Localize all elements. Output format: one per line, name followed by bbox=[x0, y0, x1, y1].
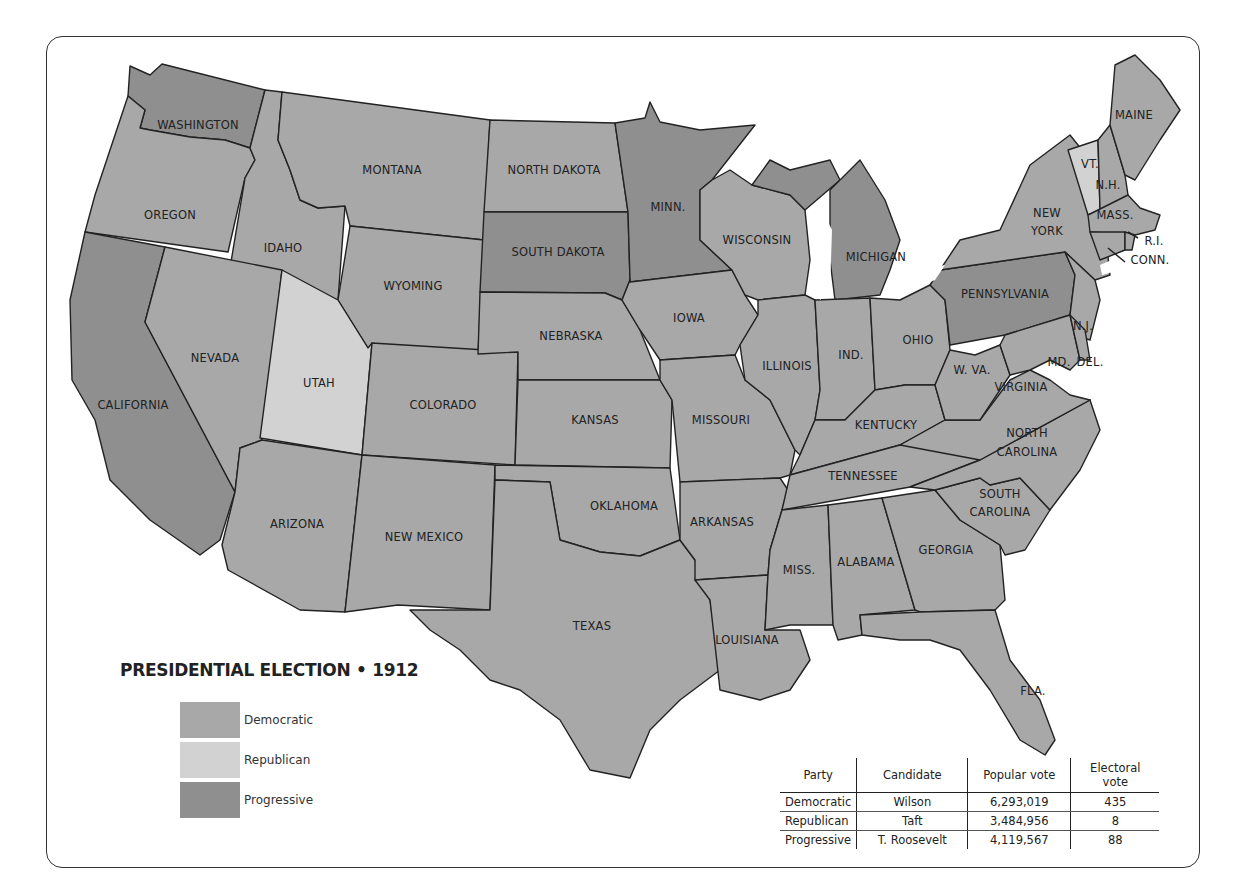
label-delaware: DEL. bbox=[1077, 355, 1104, 369]
label-alabama: ALABAMA bbox=[837, 555, 894, 569]
label-oklahoma: OKLAHOMA bbox=[590, 499, 658, 513]
state-michigan bbox=[830, 160, 900, 300]
cell-candidate: Wilson bbox=[857, 793, 968, 812]
label-pennsylvania: PENNSYLVANIA bbox=[961, 287, 1049, 301]
label-tennessee: TENNESSEE bbox=[827, 469, 898, 483]
label-south-carolina-2: CAROLINA bbox=[970, 505, 1031, 519]
legend-label-democratic: Democratic bbox=[244, 713, 313, 727]
label-colorado: COLORADO bbox=[409, 398, 476, 412]
label-rhode-island: R.I. bbox=[1144, 234, 1163, 248]
results-table: Party Candidate Popular vote Electoral v… bbox=[780, 758, 1159, 849]
label-maryland: MD. bbox=[1047, 355, 1070, 369]
table-header-row: Party Candidate Popular vote Electoral v… bbox=[780, 758, 1159, 793]
label-west-virginia: W. VA. bbox=[953, 363, 990, 377]
state-florida bbox=[860, 610, 1055, 755]
label-north-dakota: NORTH DAKOTA bbox=[507, 163, 600, 177]
legend-item-democratic: Democratic bbox=[180, 702, 313, 738]
label-new-jersey: N.J. bbox=[1073, 319, 1093, 333]
legend-swatch-republican bbox=[180, 742, 240, 778]
lake-michigan bbox=[812, 210, 832, 300]
label-montana: MONTANA bbox=[362, 163, 421, 177]
label-new-york-2: YORK bbox=[1030, 224, 1063, 238]
label-wisconsin: WISCONSIN bbox=[723, 233, 792, 247]
cell-electoral-vote: 88 bbox=[1071, 831, 1160, 850]
label-texas: TEXAS bbox=[572, 619, 611, 633]
legend: PRESIDENTIAL ELECTION • 1912 Democratic … bbox=[120, 660, 418, 680]
label-new-mexico: NEW MEXICO bbox=[385, 530, 463, 544]
table-row: Republican Taft 3,484,956 8 bbox=[780, 812, 1159, 831]
cell-party: Democratic bbox=[780, 793, 857, 812]
cell-popular-vote: 6,293,019 bbox=[968, 793, 1071, 812]
label-south-dakota: SOUTH DAKOTA bbox=[512, 245, 605, 259]
header-electoral-vote: Electoral vote bbox=[1071, 758, 1160, 793]
table-row: Progressive T. Roosevelt 4,119,567 88 bbox=[780, 831, 1159, 850]
table-row: Democratic Wilson 6,293,019 435 bbox=[780, 793, 1159, 812]
label-michigan: MICHIGAN bbox=[846, 250, 906, 264]
legend-item-republican: Republican bbox=[180, 742, 310, 778]
label-nevada: NEVADA bbox=[191, 351, 240, 365]
legend-item-progressive: Progressive bbox=[180, 782, 313, 818]
label-illinois: ILLINOIS bbox=[762, 359, 812, 373]
label-georgia: GEORGIA bbox=[919, 543, 974, 557]
label-vermont: VT. bbox=[1081, 157, 1099, 171]
label-california: CALIFORNIA bbox=[97, 398, 168, 412]
cell-electoral-vote: 8 bbox=[1071, 812, 1160, 831]
label-oregon: OREGON bbox=[144, 208, 196, 222]
label-new-hampshire: N.H. bbox=[1095, 178, 1120, 192]
label-washington: WASHINGTON bbox=[157, 118, 239, 132]
label-iowa: IOWA bbox=[673, 311, 705, 325]
legend-label-progressive: Progressive bbox=[244, 793, 313, 807]
cell-candidate: Taft bbox=[857, 812, 968, 831]
label-indiana: IND. bbox=[838, 348, 863, 362]
label-utah: UTAH bbox=[303, 376, 335, 390]
cell-party: Republican bbox=[780, 812, 857, 831]
label-arkansas: ARKANSAS bbox=[690, 515, 754, 529]
header-party: Party bbox=[780, 758, 857, 793]
label-north-carolina-1: NORTH bbox=[1006, 426, 1047, 440]
map-title: PRESIDENTIAL ELECTION • 1912 bbox=[120, 660, 418, 680]
label-north-carolina-2: CAROLINA bbox=[997, 445, 1058, 459]
cell-popular-vote: 3,484,956 bbox=[968, 812, 1071, 831]
legend-swatch-democratic bbox=[180, 702, 240, 738]
header-candidate: Candidate bbox=[857, 758, 968, 793]
header-popular-vote: Popular vote bbox=[968, 758, 1071, 793]
label-maine: MAINE bbox=[1115, 108, 1153, 122]
label-kentucky: KENTUCKY bbox=[855, 418, 918, 432]
label-ohio: OHIO bbox=[903, 333, 934, 347]
label-connecticut: CONN. bbox=[1131, 253, 1170, 267]
label-virginia: VIRGINIA bbox=[994, 380, 1047, 394]
cell-electoral-vote: 435 bbox=[1071, 793, 1160, 812]
label-arizona: ARIZONA bbox=[270, 517, 324, 531]
label-south-carolina-1: SOUTH bbox=[979, 487, 1020, 501]
cell-popular-vote: 4,119,567 bbox=[968, 831, 1071, 850]
label-idaho: IDAHO bbox=[264, 241, 303, 255]
label-wyoming: WYOMING bbox=[383, 279, 442, 293]
label-kansas: KANSAS bbox=[571, 413, 619, 427]
cell-party: Progressive bbox=[780, 831, 857, 850]
label-mississippi: MISS. bbox=[783, 563, 816, 577]
label-florida: FLA. bbox=[1020, 684, 1045, 698]
legend-label-republican: Republican bbox=[244, 753, 310, 767]
label-massachusetts: MASS. bbox=[1096, 208, 1133, 222]
label-nebraska: NEBRASKA bbox=[539, 329, 602, 343]
label-missouri: MISSOURI bbox=[692, 413, 750, 427]
legend-swatch-progressive bbox=[180, 782, 240, 818]
cell-candidate: T. Roosevelt bbox=[857, 831, 968, 850]
label-new-york-1: NEW bbox=[1033, 206, 1061, 220]
label-minnesota: MINN. bbox=[650, 200, 685, 214]
label-louisiana: LOUISIANA bbox=[715, 633, 779, 647]
